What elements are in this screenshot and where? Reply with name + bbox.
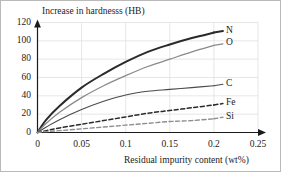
series-label-si: Si xyxy=(226,112,234,122)
series-leader-c xyxy=(214,84,223,86)
series-label-n: N xyxy=(226,26,233,36)
y-tick-label: 100 xyxy=(7,36,31,46)
series-label-c: C xyxy=(226,79,232,89)
y-tick-label: 40 xyxy=(7,91,31,101)
hardness-vs-impurity-chart: Increase in hardnesss (HB) Residual impu… xyxy=(0,0,281,172)
y-tick-label: 80 xyxy=(7,54,31,64)
x-tick-label: 0.05 xyxy=(65,140,99,150)
y-tick-label: 0 xyxy=(7,128,31,138)
y-tick-label: 60 xyxy=(7,73,31,83)
x-tick-label: 0.25 xyxy=(241,140,275,150)
x-axis-title: Residual impurity content (wt%) xyxy=(124,156,249,166)
series-leader-si xyxy=(214,117,223,119)
x-tick-label: 0.2 xyxy=(197,140,231,150)
x-tick-label: 0.15 xyxy=(153,140,187,150)
x-tick-label: 0.1 xyxy=(109,140,143,150)
x-tick-label: 0 xyxy=(21,140,55,150)
data-series xyxy=(38,31,223,132)
series-label-fe: Fe xyxy=(226,98,236,108)
y-tick-label: 120 xyxy=(7,18,31,28)
series-label-o: O xyxy=(226,38,233,48)
y-tick-label: 20 xyxy=(7,109,31,119)
series-leader-o xyxy=(214,44,223,46)
series-leader-fe xyxy=(214,104,223,106)
y-axis-title: Increase in hardnesss (HB) xyxy=(42,7,145,17)
series-leader-n xyxy=(214,31,223,33)
